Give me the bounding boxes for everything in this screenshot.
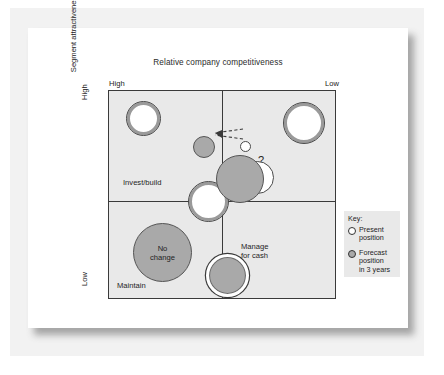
bubble-no-change-label: No change [134,243,191,261]
matrix-grid: Invest/build Maintain Manage for cash ? [108,90,336,299]
forecast-movement-arrow [193,123,249,147]
x-axis-high-label: High [109,79,125,88]
legend-key-box: Key: Present position Forecast position … [344,211,400,277]
figure-root: Relative company competitiveness High Lo… [0,0,444,375]
legend-present-line-2: position [359,234,384,242]
legend-forecast-line-3: in 3 years [359,266,390,274]
y-axis-caption: Segment attractiveness [69,0,78,78]
x-axis-low-label: Low [325,79,339,88]
quadrant-label-maintain: Maintain [117,282,146,291]
quadrant-label-manage-for-cash: Manage for cash [241,243,268,261]
forecast-position-icon [348,250,356,258]
bubble-segment-7-forecast [206,254,249,297]
page-title: Relative company competitiveness [28,58,408,67]
quadrant-label-invest-build: Invest/build [123,179,161,188]
y-axis-low-label: Low [80,272,89,286]
legend-item-forecast: Forecast position in 3 years [348,249,390,274]
manage-for-cash-line-2: for cash [241,252,268,261]
legend-title: Key: [348,214,362,223]
bubble-no-change: No change [133,223,192,282]
legend-item-present: Present position [348,226,384,243]
bubble-segment-2-present [284,103,324,143]
figure-page: Relative company competitiveness High Lo… [28,28,408,328]
present-position-icon [348,227,356,235]
bubble-segment-1-present [127,102,160,135]
no-change-line-2: change [134,253,191,262]
bubble-segment-5-forecast [216,155,264,203]
y-axis-high-label: High [80,84,89,100]
no-change-line-1: No [134,243,191,252]
